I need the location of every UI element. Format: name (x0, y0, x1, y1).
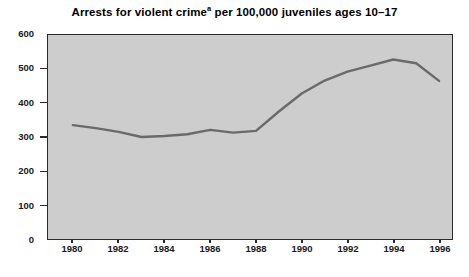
chart-title-main: Arrests for violent crime (72, 6, 207, 18)
y-axis-tick-label: 600 (0, 28, 47, 40)
y-axis-tick-label: 0 (0, 234, 47, 246)
chart-title: Arrests for violent crimea per 100,000 j… (0, 6, 469, 18)
chart-figure: Arrests for violent crimea per 100,000 j… (0, 0, 469, 277)
chart-title-suffix: per 100,000 juveniles ages 10–17 (211, 6, 397, 18)
data-line (73, 59, 439, 137)
x-axis-tick-label: 1996 (410, 243, 469, 255)
line-series-svg (48, 35, 452, 239)
plot-area (47, 34, 453, 240)
